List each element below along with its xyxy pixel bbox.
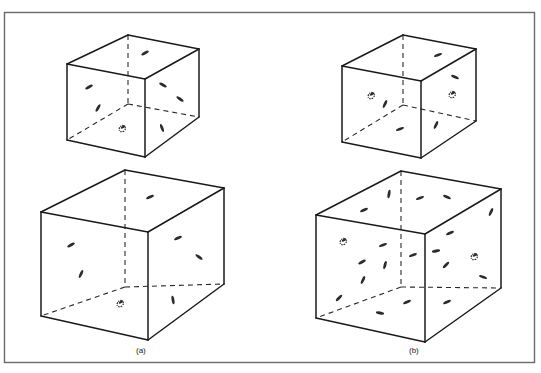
feature-mark	[376, 311, 385, 315]
diagram-canvas	[0, 0, 541, 373]
feature-mark	[403, 299, 412, 305]
figure-border	[5, 13, 535, 363]
hidden-edge	[403, 105, 476, 121]
feature-mark	[358, 259, 367, 266]
cube-b-large	[316, 171, 501, 342]
cube-edge	[41, 212, 148, 232]
feature-mark	[335, 294, 343, 302]
feature-mark	[396, 126, 405, 132]
cube-edge	[128, 35, 199, 49]
panel-label-a: (a)	[136, 346, 146, 355]
feature-mark	[488, 208, 494, 217]
feature-mark	[432, 249, 441, 253]
cube-edge	[421, 121, 476, 158]
feature-mark	[409, 252, 418, 258]
hidden-edge	[401, 287, 501, 288]
feature-mark	[67, 242, 76, 249]
feature-mark	[387, 190, 391, 199]
feature-mark	[479, 274, 488, 280]
feature-mark	[433, 121, 439, 130]
feature-mark	[171, 296, 175, 305]
cube-edge	[421, 49, 476, 81]
hidden-edge	[41, 287, 125, 316]
feature-mark	[442, 261, 450, 269]
feature-mark	[78, 270, 84, 279]
feature-mark	[146, 194, 155, 200]
feature-mark	[195, 253, 203, 260]
feature-mark	[382, 100, 388, 109]
cube-edge	[41, 316, 148, 340]
figure-panel: (a) (b)	[0, 0, 541, 373]
feature-mark	[379, 242, 388, 248]
cube-edge	[342, 35, 403, 66]
cube-edge	[145, 49, 199, 79]
feature-mark	[159, 82, 168, 89]
hidden-edge	[125, 284, 224, 287]
hidden-edge	[128, 104, 199, 117]
feature-mark	[174, 235, 183, 241]
cube-edge	[67, 64, 145, 79]
cube-edge	[125, 170, 224, 188]
panel-label-b: (b)	[409, 346, 419, 355]
hidden-edge	[316, 287, 401, 318]
feature-mark	[443, 299, 452, 305]
feature-mark	[95, 104, 102, 113]
cube-edge	[67, 140, 145, 157]
cube-edge	[401, 171, 501, 189]
hidden-edge	[342, 105, 403, 142]
feature-mark	[443, 194, 452, 200]
feature-mark	[383, 261, 388, 270]
cube-a-small	[67, 35, 199, 157]
cube-edge	[148, 284, 224, 340]
feature-mark	[451, 74, 460, 80]
feature-mark	[360, 276, 366, 285]
feature-mark	[141, 50, 150, 57]
feature-mark	[416, 195, 425, 201]
cube-edge	[41, 170, 125, 212]
cube-a-large	[41, 170, 224, 340]
cube-edge	[316, 318, 425, 342]
feature-mark	[360, 207, 369, 213]
feature-mark	[85, 84, 94, 91]
cube-edge	[425, 288, 501, 342]
cube-edge	[67, 35, 128, 64]
feature-mark	[434, 52, 443, 58]
cube-edge	[425, 189, 501, 234]
cube-b-small	[342, 35, 476, 158]
feature-mark	[176, 95, 184, 102]
cube-edge	[145, 117, 199, 157]
cube-edge	[148, 188, 224, 232]
feature-mark	[446, 230, 455, 236]
cube-edge	[342, 66, 421, 81]
feature-mark	[159, 124, 165, 133]
cube-edge	[403, 35, 476, 49]
cube-edge	[316, 215, 425, 234]
cube-edge	[342, 142, 421, 158]
